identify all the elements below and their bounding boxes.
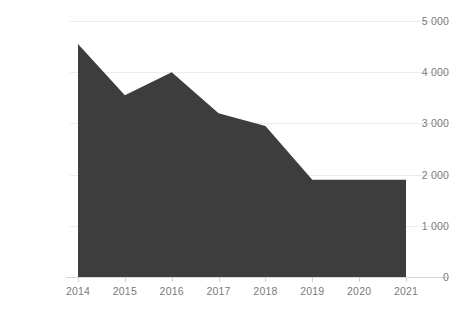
x-axis-tick-label: 2014 (66, 286, 90, 297)
area-chart: 01 0002 0003 0004 0005 000 2014201520162… (0, 0, 449, 316)
y-axis-tick-label: 5 000 (387, 16, 449, 27)
x-axis-tick-label: 2019 (300, 286, 324, 297)
area-series-path (78, 44, 406, 277)
area-series (78, 44, 406, 277)
plot-area: 01 0002 0003 0004 0005 000 2014201520162… (0, 0, 449, 316)
x-axis-tick-label: 2020 (347, 286, 371, 297)
x-axis-tickmarks (79, 278, 407, 282)
y-axis-tick-label: 4 000 (387, 67, 449, 78)
x-axis-tick-label: 2021 (394, 286, 418, 297)
y-axis-tick-label: 2 000 (387, 169, 449, 180)
x-axis-tick-label: 2016 (160, 286, 184, 297)
x-axis-tick-label: 2018 (253, 286, 277, 297)
y-axis-tick-label: 3 000 (387, 118, 449, 129)
x-axis-tick-label: 2015 (113, 286, 137, 297)
y-axis-tick-label: 1 000 (387, 221, 449, 232)
x-axis-tick-label: 2017 (206, 286, 230, 297)
y-axis-tick-label: 0 (387, 272, 449, 283)
chart-canvas (0, 0, 449, 316)
